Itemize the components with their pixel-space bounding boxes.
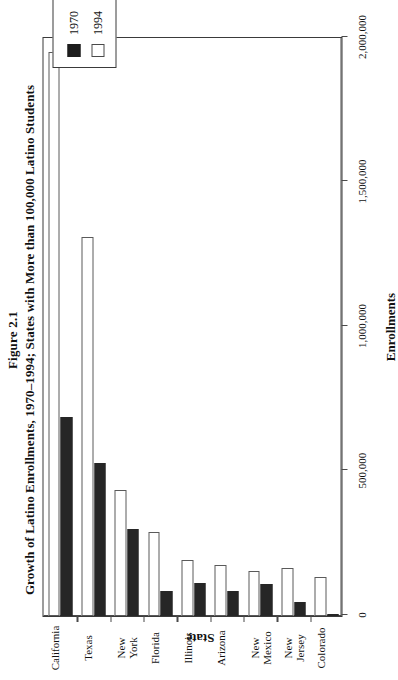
bar-1970-florida: [160, 591, 172, 616]
legend-label-1994: 1994: [90, 11, 105, 35]
legend-swatch-1994-icon: [91, 44, 104, 57]
bar-1994-new-mexico: [248, 571, 260, 616]
legend-swatch-1970-icon: [67, 44, 80, 57]
value-axis-tick: [341, 36, 347, 37]
bar-1970-new-mexico: [260, 584, 272, 616]
value-axis-title: Enrollments: [382, 37, 398, 617]
category-axis-tick: [276, 616, 277, 622]
value-axis-tick: [341, 180, 347, 181]
category-axis-title: State: [140, 630, 260, 646]
value-axis-tick-label: 1,000,000: [355, 304, 367, 348]
plot-area: 0500,0001,000,0001,500,0002,000,000Calif…: [43, 38, 341, 616]
category-label-new-jersey: New Jersey: [281, 622, 305, 674]
plot-frame: 0500,0001,000,0001,500,0002,000,000Calif…: [42, 37, 342, 617]
category-axis-tick: [243, 616, 244, 622]
category-label-colorado: Colorado: [314, 622, 326, 674]
bar-1994-new-york: [114, 490, 126, 616]
category-axis-tick: [110, 616, 111, 622]
bar-1994-illinois: [181, 560, 193, 616]
legend-label-1970: 1970: [66, 11, 81, 35]
bar-1970-new-york: [127, 529, 139, 616]
bar-1970-california: [60, 417, 72, 616]
value-axis-tick: [341, 325, 347, 326]
value-axis-tick-label: 1,500,000: [355, 160, 367, 204]
category-label-new-york: New York: [114, 622, 138, 674]
bar-1970-arizona: [227, 591, 239, 616]
figure-caption: Growth of Latino Enrollments, 1970–1994;…: [20, 0, 37, 680]
bar-1994-california: [48, 52, 60, 616]
figure-number: Figure 2.1: [4, 0, 20, 680]
category-axis-tick: [143, 616, 144, 622]
bar-1970-new-jersey: [294, 602, 306, 616]
figure-title-block: Figure 2.1 Growth of Latino Enrollments,…: [4, 0, 37, 680]
category-axis-tick: [76, 616, 77, 622]
chart-legend: 1970 1994: [52, 0, 116, 68]
bar-1970-texas: [94, 463, 106, 616]
value-axis-line: [340, 38, 341, 616]
value-axis-tick-label: 500,000: [355, 453, 367, 489]
bar-1994-colorado: [314, 577, 326, 616]
category-label-california: California: [48, 622, 60, 674]
bar-1994-texas: [81, 237, 93, 616]
bar-1994-new-jersey: [281, 568, 293, 616]
value-axis-tick-label: 0: [355, 612, 367, 618]
value-axis-tick: [341, 469, 347, 470]
category-axis-tick: [210, 616, 211, 622]
bar-1970-colorado: [327, 614, 339, 616]
category-label-texas: Texas: [81, 622, 93, 674]
bar-1994-arizona: [214, 565, 226, 616]
category-axis-tick: [176, 616, 177, 622]
category-axis-tick: [310, 616, 311, 622]
value-axis-tick-label: 2,000,000: [355, 15, 367, 59]
legend-item-1994: 1994: [85, 0, 109, 57]
legend-item-1970: 1970: [61, 0, 85, 57]
bar-1970-illinois: [194, 583, 206, 616]
bar-1994-florida: [148, 532, 160, 616]
value-axis-tick: [341, 614, 347, 615]
